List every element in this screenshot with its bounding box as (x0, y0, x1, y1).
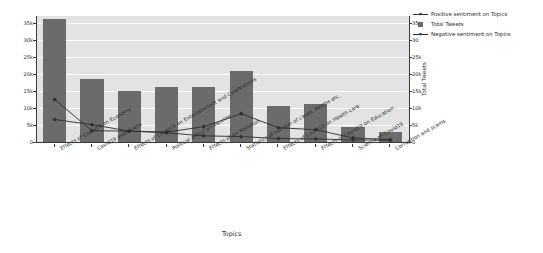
x-axis-tick (240, 144, 241, 147)
y-axis-right-tick (409, 108, 412, 109)
y-axis-right-tick (409, 74, 412, 75)
y-axis-right-tick (409, 57, 412, 58)
y-axis-left-tick (33, 57, 36, 58)
y-axis-right-tick (409, 125, 412, 126)
x-axis-tick (352, 144, 353, 147)
y-axis-left-tick (33, 23, 36, 24)
legend-label: Negative sentiment on Topics (431, 30, 511, 39)
x-axis-tick (166, 144, 167, 147)
x-axis-title: Topics (222, 230, 241, 238)
x-axis-ticklabel-2: Effects of Covid19 on Entertainment and … (133, 76, 257, 151)
legend-line-marker-icon (413, 30, 428, 39)
y-axis-left-tick (33, 142, 36, 143)
y-axis-right-tick (409, 91, 412, 92)
y-axis-right-tick (409, 142, 412, 143)
x-axis-tick (315, 144, 316, 147)
x-axis-tick (203, 144, 204, 147)
legend-item-positive-sentiment[interactable]: Positive sentiment on Topics (413, 10, 541, 19)
x-axis-ticklabel-0: Effects of Covid19 on Economy (59, 106, 132, 152)
y-axis-left-tick (33, 74, 36, 75)
x-axis-tick (91, 144, 92, 147)
y-axis-right-tick (409, 23, 412, 24)
y-axis-left-tick (33, 125, 36, 126)
x-axis-tick (128, 144, 129, 147)
y-axis-right-tick (409, 40, 412, 41)
legend-label: Positive sentiment on Topics (431, 10, 507, 19)
x-axis-tick (389, 144, 390, 147)
y-axis-left-tick (33, 40, 36, 41)
legend-square-swatch-icon (413, 20, 428, 29)
y-axis-left-tick (33, 108, 36, 109)
chart-figure: 05k10k15k20k25k30k35k 05k10k15k20k25k303… (0, 0, 543, 253)
x-axis-tick (54, 144, 55, 147)
y-axis-left-tick (33, 91, 36, 92)
legend-item-negative-sentiment[interactable]: Negative sentiment on Topics (413, 30, 541, 39)
legend-item-total-tweets[interactable]: Total Tweets (413, 20, 541, 29)
chart-legend: Positive sentiment on Topics Total Tweet… (413, 10, 541, 40)
legend-label: Total Tweets (431, 20, 464, 29)
x-axis-ticklabel-7: Effects of Covid19 on Education (320, 105, 395, 152)
x-axis-tick (277, 144, 278, 147)
legend-line-marker-icon (413, 10, 428, 19)
